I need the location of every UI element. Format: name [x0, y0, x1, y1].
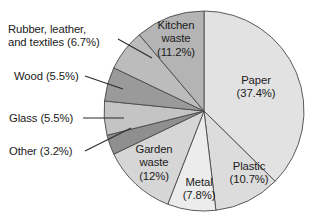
slice-label-plastic: Plastic (10.7%): [219, 160, 279, 187]
slice-label-kitchen-waste: Kitchen waste (11.2%): [145, 19, 207, 59]
pie-chart-figure: Rubber, leather, and textiles (6.7%) Woo…: [0, 0, 322, 222]
slice-label-paper: Paper (37.4%): [225, 74, 287, 101]
slice-label-rubber-leather-textiles: Rubber, leather, and textiles (6.7%): [8, 23, 100, 50]
slice-label-garden-waste: Garden waste (12%): [125, 143, 183, 183]
slice-label-wood: Wood (5.5%): [14, 70, 79, 83]
slice-label-other: Other (3.2%): [9, 145, 72, 158]
slice-label-glass: Glass (5.5%): [9, 112, 73, 125]
